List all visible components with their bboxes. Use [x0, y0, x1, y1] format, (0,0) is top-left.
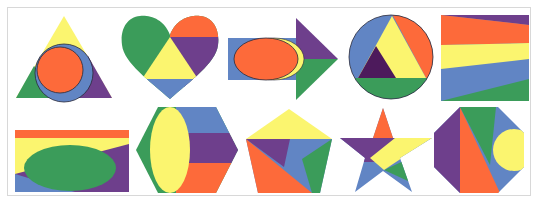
arrow-shape: [228, 18, 338, 100]
rectangle-shape: [15, 130, 129, 192]
heart-shape: [120, 13, 220, 101]
triangle-shape: [14, 14, 114, 100]
hexagon-shape: [136, 107, 238, 193]
striped-square-shape: [441, 15, 529, 101]
circle-shape: [346, 14, 436, 100]
octagon-shape: [434, 107, 524, 193]
pentagon-shape: [246, 109, 332, 193]
star-shape: [340, 108, 432, 192]
